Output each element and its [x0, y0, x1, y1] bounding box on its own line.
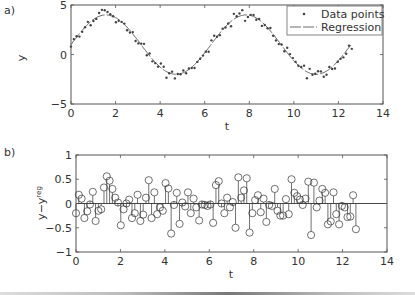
data-point: [328, 66, 330, 68]
data-point: [137, 42, 139, 44]
data-point: [146, 54, 148, 56]
stem-marker: [173, 189, 180, 196]
x-tick-label: 10: [291, 255, 305, 268]
data-point: [140, 42, 142, 44]
data-point: [177, 73, 179, 75]
data-point: [213, 35, 215, 37]
x-tick-label: 12: [336, 255, 350, 268]
x-tick-label: 4: [161, 255, 168, 268]
data-point: [345, 53, 347, 55]
x-tick-label: 2: [117, 255, 124, 268]
data-point: [283, 50, 285, 52]
x-tick-label: 10: [287, 107, 301, 120]
legend: Data points Regression: [287, 6, 385, 35]
y-tick-label: 5: [60, 0, 67, 12]
legend-dot-icon: [303, 13, 306, 16]
data-point: [143, 43, 145, 45]
data-point: [148, 52, 150, 54]
stem-marker: [145, 177, 152, 184]
stem-marker: [89, 188, 96, 195]
stem-marker: [352, 226, 359, 233]
data-point: [160, 62, 162, 64]
stem-marker: [162, 180, 169, 187]
data-point: [165, 77, 167, 79]
data-point: [233, 13, 235, 15]
ylabel-superscript: reg: [35, 186, 43, 197]
data-point: [115, 21, 117, 23]
data-point: [348, 44, 350, 46]
data-point: [210, 39, 212, 41]
x-tick-label: 6: [201, 107, 208, 120]
stem-marker: [288, 176, 295, 183]
data-point: [109, 13, 111, 15]
data-point: [280, 43, 282, 45]
stem-marker: [327, 218, 334, 225]
data-point: [157, 65, 159, 67]
data-point: [244, 20, 246, 22]
data-point: [103, 9, 105, 11]
stem-marker: [232, 224, 239, 231]
data-point: [227, 22, 229, 24]
stem-marker: [271, 185, 278, 192]
data-point: [196, 61, 198, 63]
data-point: [334, 67, 336, 69]
data-point: [216, 36, 218, 38]
data-point: [252, 14, 254, 16]
data-point: [292, 57, 294, 59]
plot-a-ylabel: y: [15, 54, 28, 61]
data-point: [188, 67, 190, 69]
data-point: [171, 70, 173, 72]
data-point: [92, 20, 94, 22]
data-point: [337, 61, 339, 63]
data-point: [351, 48, 353, 50]
stem-marker: [187, 210, 194, 217]
stem-marker: [92, 217, 99, 224]
data-point: [81, 31, 83, 33]
stem-marker: [324, 221, 331, 228]
data-point: [286, 47, 288, 49]
data-point: [266, 27, 268, 29]
figure: a) 02468101214 50−5 Data points Regressi…: [0, 0, 415, 295]
data-point: [185, 72, 187, 74]
data-point: [255, 19, 257, 21]
data-point: [89, 24, 91, 26]
data-point: [314, 72, 316, 74]
stem-marker: [336, 221, 343, 228]
plot-b-axes: 02468101214 10.50−0.5−1 y−yreg t: [35, 149, 394, 281]
x-tick-label: 14: [376, 107, 390, 120]
x-tick-label: 4: [157, 107, 164, 120]
stem-marker: [308, 231, 315, 238]
data-point: [84, 26, 86, 28]
data-point: [317, 70, 319, 72]
stem-marker: [117, 222, 124, 229]
data-point: [269, 27, 271, 29]
data-point: [308, 68, 310, 70]
stem-marker: [260, 195, 267, 202]
plot-a-axes: 02468101214 50−5 Data points Regression …: [15, 0, 390, 133]
data-point: [241, 9, 243, 11]
data-point: [78, 35, 80, 37]
data-point: [70, 45, 72, 47]
data-point: [179, 73, 181, 75]
data-point: [98, 12, 100, 14]
stem-marker: [350, 192, 357, 199]
data-point: [112, 15, 114, 17]
data-point: [320, 70, 322, 72]
stem-marker: [98, 206, 105, 213]
y-tick-label: −1: [56, 246, 72, 259]
stem-marker: [310, 179, 317, 186]
data-point: [123, 22, 125, 24]
data-point: [323, 76, 325, 78]
data-point: [247, 16, 249, 18]
data-point: [221, 27, 223, 29]
data-point: [224, 26, 226, 28]
data-point: [106, 11, 108, 13]
data-point: [118, 20, 120, 22]
data-point: [154, 62, 156, 64]
data-point: [151, 60, 153, 62]
data-point: [278, 43, 280, 45]
data-point: [174, 77, 176, 79]
stem-marker: [246, 229, 253, 236]
x-tick-label: 2: [112, 107, 119, 120]
data-point: [261, 25, 263, 27]
